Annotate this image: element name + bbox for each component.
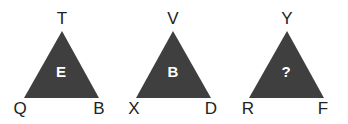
triangle-2: V X D B bbox=[128, 9, 217, 118]
unknown-center-question-mark: ? bbox=[281, 63, 290, 80]
left-vertex-label: X bbox=[128, 99, 139, 118]
right-vertex-label: D bbox=[205, 99, 217, 118]
top-vertex-label: T bbox=[57, 9, 67, 28]
left-vertex-label: Q bbox=[13, 99, 26, 118]
top-vertex-label: Y bbox=[281, 9, 292, 28]
left-vertex-label: R bbox=[242, 99, 254, 118]
triangle-3: Y R F ? bbox=[242, 9, 328, 118]
center-letter: E bbox=[56, 63, 66, 80]
triangle-1: T Q B E bbox=[13, 9, 104, 118]
right-vertex-label: B bbox=[93, 99, 104, 118]
triangle-letter-puzzle: T Q B E V X D B Y R F ? bbox=[0, 0, 348, 124]
puzzle-figure: T Q B E V X D B Y R F ? bbox=[0, 0, 348, 124]
center-letter: B bbox=[168, 63, 179, 80]
top-vertex-label: V bbox=[167, 9, 179, 28]
right-vertex-label: F bbox=[318, 99, 328, 118]
